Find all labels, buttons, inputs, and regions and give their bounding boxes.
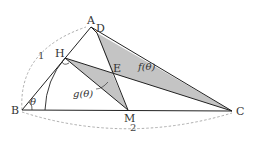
label-c: C [236, 105, 244, 118]
label-a: A [86, 14, 96, 27]
label-side-1: 1 [38, 50, 44, 61]
right-angle-mark [62, 62, 69, 64]
arc-bh [45, 58, 65, 110]
label-g-theta: g(θ) [73, 88, 93, 99]
label-theta: θ [30, 96, 36, 107]
geometry-diagram: A D H E B M C θ f(θ) g(θ) 1 2 [0, 0, 256, 144]
label-f-theta: f(θ) [137, 61, 156, 72]
segment-bc [22, 110, 232, 111]
label-h: H [55, 47, 65, 60]
label-side-2: 2 [130, 122, 136, 133]
label-d: D [96, 22, 105, 35]
label-b: B [11, 104, 19, 117]
label-e: E [113, 62, 121, 75]
